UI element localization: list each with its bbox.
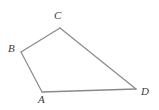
vertex-label-A: A [38,94,45,105]
geometry-figure: C B A D [0,0,159,110]
edge-CD [60,28,136,89]
vertex-label-C: C [54,10,61,21]
edge-BC [21,28,60,52]
edge-DA [42,89,136,92]
vertex-label-B: B [8,43,15,54]
quadrilateral-drawing [0,0,159,110]
vertex-label-D: D [141,86,149,97]
edge-AB [21,52,42,92]
